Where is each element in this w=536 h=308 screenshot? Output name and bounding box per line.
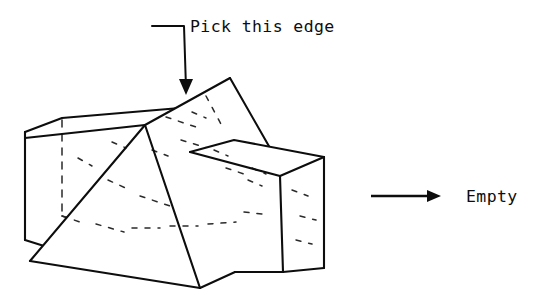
callout-leader-line	[152, 26, 186, 88]
figure-root: Pick this edge Empty	[0, 0, 536, 308]
pick-edge-callout[interactable]: Pick this edge	[152, 17, 335, 95]
result-label: Empty	[466, 187, 518, 206]
result-arrow	[371, 190, 441, 202]
pick-edge-label: Pick this edge	[190, 17, 335, 36]
solid-model-diagram: Pick this edge Empty	[0, 0, 536, 308]
callout-arrow-head-icon	[179, 79, 193, 95]
result-arrow-head-icon	[427, 190, 441, 202]
